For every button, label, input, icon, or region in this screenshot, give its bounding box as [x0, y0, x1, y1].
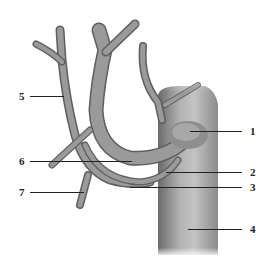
label-3: 3: [250, 182, 256, 193]
leader-line-4: [188, 229, 242, 230]
junction-bulge: [168, 121, 208, 149]
lower-left-branches: [52, 130, 90, 205]
label-1: 1: [250, 126, 256, 137]
leader-line-1: [190, 131, 242, 132]
vessel-illustration: [0, 0, 276, 275]
label-2: 2: [250, 167, 256, 178]
leader-line-5: [30, 96, 64, 97]
label-6: 6: [19, 156, 25, 167]
leader-line-2: [166, 172, 242, 173]
vessel-diagram: 1 2 3 4 5 6 7: [0, 0, 276, 275]
leader-line-3: [130, 187, 242, 188]
leader-line-6: [30, 161, 132, 162]
label-4: 4: [250, 224, 256, 235]
label-7: 7: [19, 187, 25, 198]
leader-line-7: [30, 192, 84, 193]
label-5: 5: [19, 91, 25, 102]
